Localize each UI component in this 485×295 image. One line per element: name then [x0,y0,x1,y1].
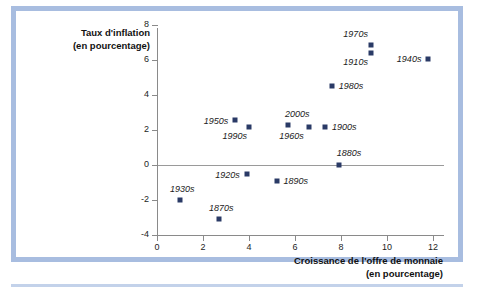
y-tick [152,95,158,96]
y-tick-label: -2 [123,194,149,204]
x-tick [341,236,342,241]
y-tick-label: 0 [123,159,149,169]
data-point-label: 1960s [16,131,304,141]
data-point-label: 1920s [16,170,240,180]
data-point-marker [217,217,222,222]
y-tick-label: -4 [123,229,149,239]
data-point-label: 1950s [16,116,228,126]
x-tick [387,236,388,241]
data-point-marker [286,122,291,127]
x-tick-label: 10 [376,242,398,252]
data-point-marker [329,84,334,89]
data-point-marker [233,117,238,122]
data-point-label: 2000s [285,109,310,119]
data-point-marker [306,124,311,129]
chart-plate: Taux d'inflation (en pourcentage) Croiss… [16,11,458,257]
data-point-marker [244,171,249,176]
x-tick-label: 0 [146,242,168,252]
data-point-label: 1930s [170,184,195,194]
zero-reference-line [157,165,444,166]
x-axis-title-line2: (en pourcentage) [221,267,443,280]
data-point-label: 1980s [339,81,364,91]
data-point-label: 1940s [16,54,421,64]
x-axis-line [157,235,444,236]
data-point-marker [368,42,373,47]
data-point-label: 1900s [332,122,357,132]
x-tick-label: 2 [192,242,214,252]
data-point-marker [336,163,341,168]
x-tick-label: 4 [238,242,260,252]
x-tick-label: 8 [330,242,352,252]
x-tick [203,236,204,241]
x-tick [249,236,250,241]
data-point-marker [274,178,279,183]
data-point-marker [247,124,252,129]
x-tick [433,236,434,241]
y-tick [152,165,158,166]
x-tick-label: 6 [284,242,306,252]
x-tick [295,236,296,241]
data-point-marker [178,197,183,202]
y-axis-title-line2: (en pourcentage) [22,39,150,52]
y-tick [152,200,158,201]
data-point-marker [322,124,327,129]
data-point-label: 1880s [337,148,362,158]
data-point-marker [426,56,431,61]
page-root: Taux d'inflation (en pourcentage) Croiss… [0,0,485,295]
x-tick-label: 12 [422,242,444,252]
x-axis-title: Croissance de l'offre de monnaie (en pou… [221,254,443,280]
x-tick [157,236,158,241]
chart-frame: Taux d'inflation (en pourcentage) Croiss… [11,6,463,262]
data-point-label: 1870s [209,203,234,213]
data-point-label: 1890s [284,176,309,186]
y-tick [152,25,158,26]
y-tick-label: 4 [123,89,149,99]
bottom-rule [11,284,463,287]
data-point-label: 1970s [16,29,368,39]
x-axis-title-line1: Croissance de l'offre de monnaie [221,254,443,267]
scatter-chart: Taux d'inflation (en pourcentage) Croiss… [16,11,468,267]
